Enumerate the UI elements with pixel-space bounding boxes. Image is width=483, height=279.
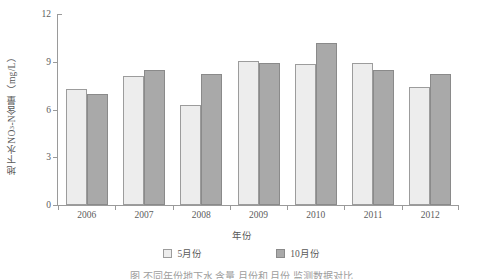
y-tick-label: 3 xyxy=(46,152,51,162)
bar-group xyxy=(66,14,108,205)
x-axis-tick-labels: 2006200720082009201020112012 xyxy=(57,210,459,226)
bar-2007-oct[interactable] xyxy=(144,70,165,205)
y-tick-mark xyxy=(53,110,57,111)
bar-2008-oct[interactable] xyxy=(201,74,222,205)
legend-item-may[interactable]: 5月份 xyxy=(163,246,202,260)
y-tick-label: 0 xyxy=(46,200,51,210)
bar-2011-oct[interactable] xyxy=(373,70,394,205)
bar-group xyxy=(409,14,451,205)
legend-label: 5月份 xyxy=(177,246,202,260)
bar-2010-may[interactable] xyxy=(295,64,316,205)
x-tick-label-2006: 2006 xyxy=(77,210,96,220)
y-axis-title-text: 地下水NO3-N含量（mg/L） xyxy=(8,52,18,175)
bar-2009-oct[interactable] xyxy=(259,63,280,205)
bar-2006-may[interactable] xyxy=(66,89,87,205)
figure-caption: 图 不同年份地下水 含量 月份和 月份 监测数据对比 xyxy=(0,268,483,279)
y-tick-mark xyxy=(53,62,57,63)
bar-2010-oct[interactable] xyxy=(316,43,337,205)
legend-item-oct[interactable]: 10月份 xyxy=(276,246,320,260)
x-axis-line xyxy=(57,205,459,206)
y-tick-mark xyxy=(53,157,57,158)
legend-swatch-may-icon xyxy=(163,249,172,258)
bar-group xyxy=(295,14,337,205)
plot-area: 036912 xyxy=(57,14,459,206)
y-tick-label: 6 xyxy=(46,105,51,115)
x-tick-label-2009: 2009 xyxy=(249,210,268,220)
bar-2008-may[interactable] xyxy=(180,105,201,205)
y-tick-label: 12 xyxy=(42,9,52,19)
y-tick-label: 9 xyxy=(46,57,51,67)
legend-label: 10月份 xyxy=(290,246,320,260)
bar-2011-may[interactable] xyxy=(352,63,373,205)
x-tick-label-2010: 2010 xyxy=(306,210,325,220)
x-axis-title: 年份 xyxy=(0,228,483,242)
bar-2012-may[interactable] xyxy=(409,87,430,205)
bar-2007-may[interactable] xyxy=(123,76,144,205)
bar-series-container xyxy=(58,14,459,205)
x-tick-label-2008: 2008 xyxy=(192,210,211,220)
chart-legend: 5月份10月份 xyxy=(0,246,483,260)
y-axis-title: 地下水NO3-N含量（mg/L） xyxy=(4,18,22,208)
bar-2012-oct[interactable] xyxy=(430,74,451,205)
bar-2009-may[interactable] xyxy=(238,61,259,205)
bar-group xyxy=(180,14,222,205)
x-tick-label-2012: 2012 xyxy=(421,210,440,220)
x-tick-label-2011: 2011 xyxy=(364,210,383,220)
bar-group xyxy=(123,14,165,205)
chart-figure: 地下水NO3-N含量（mg/L） 036912 2006200720082009… xyxy=(0,0,483,279)
x-tick-label-2007: 2007 xyxy=(134,210,153,220)
y-tick-mark xyxy=(53,205,57,206)
bar-group xyxy=(352,14,394,205)
legend-swatch-oct-icon xyxy=(276,249,285,258)
bar-group xyxy=(238,14,280,205)
bar-2006-oct[interactable] xyxy=(87,94,108,205)
